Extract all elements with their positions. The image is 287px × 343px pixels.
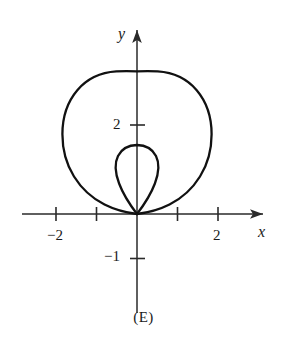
x-tick-label-positive-2: 2 — [213, 228, 221, 243]
plot-canvas — [0, 0, 287, 343]
y-tick-label-negative-1: −1 — [104, 249, 120, 264]
y-tick-label-positive-2: 2 — [113, 117, 121, 132]
figure-caption: (E) — [0, 309, 287, 326]
polar-curve-figure: y x −2 2 2 −1 (E) — [0, 0, 287, 343]
x-axis-label: x — [258, 224, 265, 240]
x-tick-label-negative-2: −2 — [47, 228, 63, 243]
y-axis-label: y — [118, 26, 125, 42]
